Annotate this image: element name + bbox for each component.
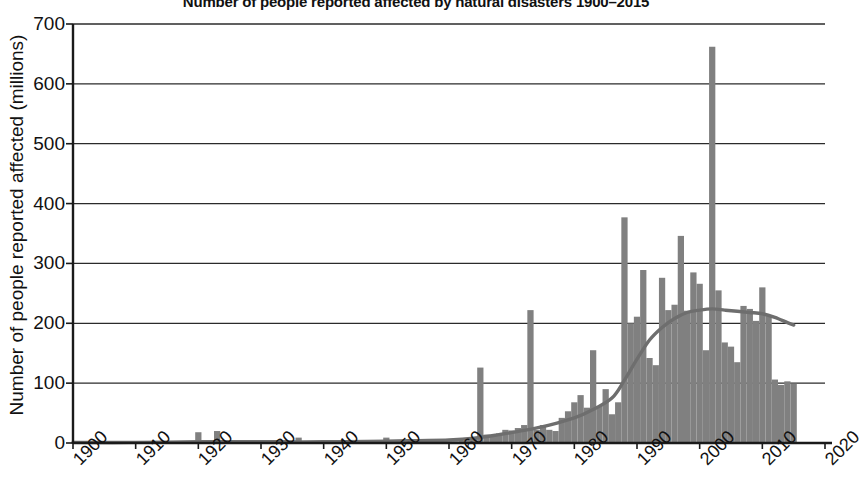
y-tick-label: 100 bbox=[19, 372, 65, 394]
y-tick-label: 700 bbox=[19, 13, 65, 35]
y-tick-label: 300 bbox=[19, 252, 65, 274]
y-tick-label: 0 bbox=[19, 432, 65, 454]
chart-title: Number of people reported affected by na… bbox=[0, 0, 832, 10]
y-tick-label: 400 bbox=[19, 193, 65, 215]
y-tick-label: 600 bbox=[19, 73, 65, 95]
y-tick-label: 500 bbox=[19, 133, 65, 155]
y-tick-label: 200 bbox=[19, 312, 65, 334]
